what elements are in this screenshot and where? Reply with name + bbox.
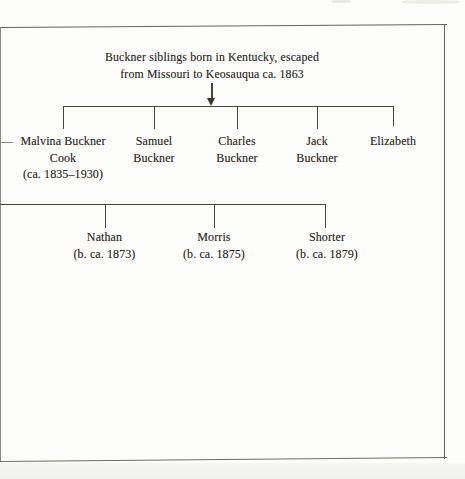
person-dates-line: (ca. 1835–1930) bbox=[20, 166, 105, 183]
person-name-line: Jack bbox=[296, 133, 337, 150]
gen2-drop-shorter bbox=[325, 204, 326, 228]
person-name-line: Charles bbox=[216, 133, 257, 150]
person-name-line: Nathan bbox=[74, 229, 136, 246]
person-dates-line: (b. ca. 1873) bbox=[74, 246, 136, 263]
gen2-drop-morris bbox=[214, 204, 215, 228]
gen1-drop-malvina bbox=[63, 106, 64, 129]
gen2-sibling-bar bbox=[0, 204, 326, 205]
person-dates-line: (b. ca. 1879) bbox=[296, 246, 358, 263]
person-nathan: Nathan (b. ca. 1873) bbox=[74, 229, 136, 262]
person-name-line: Buckner bbox=[216, 150, 257, 167]
gen1-sibling-bar bbox=[63, 106, 394, 107]
person-jack-buckner: Jack Buckner bbox=[296, 133, 337, 166]
person-samuel-buckner: Samuel Buckner bbox=[133, 133, 174, 166]
gen1-drop-samuel bbox=[154, 106, 155, 129]
person-shorter: Shorter (b. ca. 1879) bbox=[296, 229, 358, 262]
gen1-drop-jack bbox=[317, 106, 318, 129]
gen2-drop-nathan bbox=[105, 204, 106, 228]
person-name-line: Cook bbox=[20, 150, 105, 167]
figure-border-top bbox=[0, 24, 447, 28]
spouse-line-dash: — bbox=[1, 133, 13, 150]
gen1-drop-elizabeth bbox=[393, 106, 394, 126]
person-name-line: Buckner bbox=[296, 150, 337, 167]
person-dates-line: (b. ca. 1875) bbox=[183, 246, 245, 263]
caption-arrow-head-icon bbox=[207, 98, 215, 106]
caption-line-2: from Missouri to Keosauqua ca. 1863 bbox=[105, 66, 319, 83]
person-name-line: Samuel bbox=[133, 133, 174, 150]
scan-artifact bbox=[402, 0, 460, 4]
scanned-family-tree-page: Buckner siblings born in Kentucky, escap… bbox=[0, 0, 465, 479]
person-elizabeth: Elizabeth bbox=[370, 133, 416, 150]
gen1-drop-charles bbox=[237, 106, 238, 129]
figure-border-right bbox=[444, 25, 445, 459]
figure-border-left bbox=[0, 27, 1, 461]
person-name-line: Elizabeth bbox=[370, 133, 416, 150]
scan-artifact bbox=[331, 0, 351, 3]
person-charles-buckner: Charles Buckner bbox=[216, 133, 257, 166]
person-morris: Morris (b. ca. 1875) bbox=[183, 229, 245, 262]
figure-border-bottom bbox=[0, 457, 447, 462]
person-name-line: Shorter bbox=[296, 229, 358, 246]
caption-line-1: Buckner siblings born in Kentucky, escap… bbox=[105, 49, 319, 66]
person-name-line: Malvina Buckner bbox=[20, 133, 105, 150]
person-name-line: Buckner bbox=[133, 150, 174, 167]
person-malvina-buckner-cook: Malvina Buckner Cook (ca. 1835–1930) bbox=[20, 133, 105, 183]
tree-caption: Buckner siblings born in Kentucky, escap… bbox=[105, 49, 319, 83]
page-edge-shadow bbox=[0, 463, 465, 479]
person-name-line: Morris bbox=[183, 229, 245, 246]
